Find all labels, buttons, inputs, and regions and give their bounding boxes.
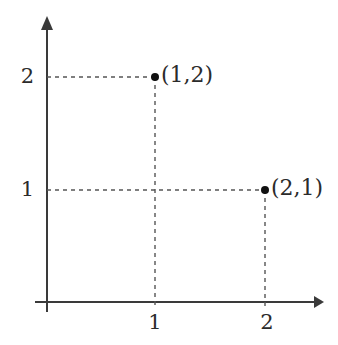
y-axis-tick-label-2: 2 — [8, 66, 34, 87]
plot-canvas — [0, 0, 338, 345]
coordinate-plot-figure: 2 1 1 2 (1,2) (2,1) — [0, 0, 338, 345]
data-point-marker[interactable] — [151, 73, 159, 81]
y-axis-tick-label-1: 1 — [8, 179, 34, 200]
arrow-right-icon — [314, 296, 324, 308]
data-point-label-2-1: (2,1) — [271, 177, 323, 199]
x-axis-tick-label-1: 1 — [142, 312, 168, 333]
x-axis-tick-label-2: 2 — [254, 312, 280, 333]
data-point-marker[interactable] — [261, 186, 269, 194]
arrow-up-icon — [41, 16, 53, 30]
data-point-label-1-2: (1,2) — [161, 64, 213, 86]
